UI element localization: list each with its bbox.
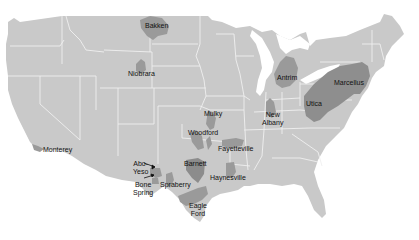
label-new-albany-line2: Albany — [262, 119, 283, 127]
label-haynesville: Haynesville — [210, 174, 246, 182]
label-new-albany: New Albany — [262, 111, 283, 127]
label-fayetteville: Fayetteville — [218, 145, 253, 153]
label-spraberry: Spraberry — [160, 181, 191, 189]
label-bone-spring-line2: Spring — [133, 189, 153, 197]
label-eagle-ford-line1: Eagle — [189, 202, 207, 210]
label-mulky: Mulky — [204, 110, 222, 118]
label-eagle-ford: Eagle Ford — [189, 202, 207, 218]
label-marcellus: Marcellus — [334, 79, 364, 87]
label-bakken: Bakken — [145, 22, 168, 30]
label-niobrara: Niobrara — [128, 70, 155, 78]
label-abo-yeso-line2: Yeso — [133, 168, 148, 176]
label-bone-spring: Bone Spring — [133, 181, 153, 197]
label-abo-yeso: Abo- Yeso — [133, 160, 148, 176]
label-new-albany-line1: New — [262, 111, 283, 119]
label-monterey: Monterey — [43, 146, 72, 154]
label-barnett: Barnett — [184, 160, 207, 168]
label-eagle-ford-line2: Ford — [189, 210, 207, 218]
label-woodford: Woodford — [188, 129, 218, 137]
label-abo-yeso-line1: Abo- — [133, 160, 148, 168]
label-utica: Utica — [306, 100, 322, 108]
label-bone-spring-line1: Bone — [133, 181, 153, 189]
label-antrim: Antrim — [277, 74, 297, 82]
